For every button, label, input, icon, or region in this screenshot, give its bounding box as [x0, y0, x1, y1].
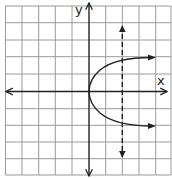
- grid: [6, 6, 172, 175]
- curve-arrow-top: [148, 55, 156, 61]
- axes: [6, 3, 167, 176]
- x-axis-label: x: [157, 73, 165, 88]
- curve-arrow-bottom: [148, 123, 156, 129]
- coordinate-graph: y x: [0, 0, 172, 178]
- y-axis-label: y: [75, 2, 83, 17]
